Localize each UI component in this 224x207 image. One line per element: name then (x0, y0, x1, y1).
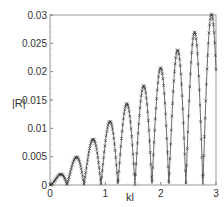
y-tick-label: 0.02 (28, 66, 48, 77)
y-tick-label: 0.025 (22, 38, 47, 49)
x-tick-label: 1 (103, 188, 109, 199)
plot-svg: 00.0050.010.0150.020.0250.030123 |R| kl (0, 0, 224, 207)
x-tick-label: 0 (47, 188, 53, 199)
y-tick-label: 0.015 (22, 95, 47, 106)
y-axis-label: |R| (12, 97, 26, 109)
x-tick-label: 3 (213, 188, 219, 199)
chart: 00.0050.010.0150.020.0250.030123 |R| kl (0, 0, 224, 207)
axis-ticks: 00.0050.010.0150.020.0250.030123 (22, 10, 219, 200)
x-axis-label: kl (126, 191, 134, 203)
y-tick-label: 0.005 (22, 151, 47, 162)
y-tick-label: 0.01 (28, 123, 48, 134)
data-series (49, 13, 218, 187)
y-tick-label: 0.03 (28, 10, 48, 21)
x-tick-label: 2 (158, 188, 164, 199)
series-line (50, 14, 216, 185)
